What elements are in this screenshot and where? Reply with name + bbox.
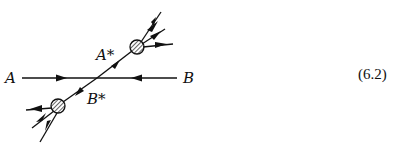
- label-B-star: B*: [86, 90, 106, 108]
- label-A: A: [3, 69, 16, 87]
- label-B: B: [182, 69, 194, 87]
- arrow-left-icon: [131, 75, 142, 82]
- arrow-right-icon: [56, 75, 67, 82]
- hatched-circle-icon: [130, 40, 144, 54]
- equation-number: (6.2): [358, 66, 387, 83]
- incoming-line-A: [22, 75, 97, 82]
- upper-blob: [130, 12, 173, 54]
- label-A-star: A*: [94, 46, 115, 64]
- scattering-diagram: A B A* B*: [0, 0, 397, 143]
- hatched-circle-icon: [51, 99, 65, 113]
- incoming-line-B: [97, 75, 177, 82]
- lower-blob: [26, 99, 65, 142]
